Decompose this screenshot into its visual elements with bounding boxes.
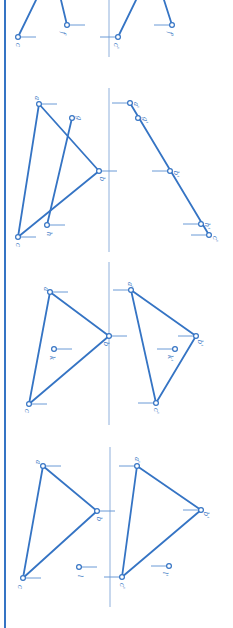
point-marker-icon: [65, 23, 70, 28]
point-marker-icon: [199, 222, 204, 227]
point-label: a': [126, 282, 134, 288]
point-b-prime: b': [152, 169, 180, 178]
point-marker-icon: [116, 35, 121, 40]
point-label: k: [48, 356, 56, 360]
point-label: l: [76, 575, 84, 577]
point-marker-icon: [154, 401, 159, 406]
point-label: b': [196, 340, 204, 346]
point-k: k: [48, 347, 72, 361]
projection-panel-1: cfc'f': [14, 0, 174, 57]
edge-line: [131, 290, 156, 403]
point-f: f: [59, 23, 85, 36]
point-c: c: [23, 402, 47, 413]
point-a: a: [42, 287, 68, 294]
point-a-prime: a': [119, 457, 141, 468]
point-marker-icon: [129, 288, 134, 293]
point-label: b: [95, 517, 103, 522]
point-label: g': [141, 117, 149, 123]
point-label: b: [102, 342, 110, 347]
point-b: b: [102, 334, 127, 347]
point-g-prime: g': [136, 116, 150, 124]
point-g: g: [70, 116, 84, 121]
point-marker-icon: [77, 565, 82, 570]
point-marker-icon: [128, 101, 133, 106]
edge-line: [29, 336, 109, 404]
edge-line: [23, 511, 97, 578]
point-label: c: [23, 409, 31, 413]
point-label: c': [211, 236, 219, 242]
edge-line: [164, 0, 172, 25]
point-label: a': [133, 457, 141, 463]
edge-line: [122, 510, 201, 577]
point-marker-icon: [136, 116, 141, 121]
point-label: h': [203, 223, 211, 230]
edge-line: [43, 466, 97, 511]
point-marker-icon: [207, 233, 212, 238]
edge-line: [18, 0, 36, 37]
point-marker-icon: [16, 35, 21, 40]
point-label: k': [166, 355, 174, 361]
point-marker-icon: [97, 169, 102, 174]
point-c-prime: c': [138, 401, 160, 414]
point-marker-icon: [120, 575, 125, 580]
point-label: g: [75, 116, 83, 121]
point-l-prime: l': [151, 564, 171, 577]
point-label: h: [45, 232, 53, 237]
point-c-prime: c': [104, 575, 126, 589]
edge-line: [61, 0, 67, 25]
edge-line: [47, 118, 72, 225]
point-marker-icon: [173, 347, 178, 352]
point-a: a: [34, 460, 61, 468]
point-marker-icon: [107, 334, 112, 339]
point-marker-icon: [167, 564, 172, 569]
edge-line: [50, 292, 109, 336]
point-f-prime: f': [154, 23, 174, 37]
point-label: a: [42, 287, 50, 291]
orthographic-projection-diagram: cfc'f'agbhca'g'b'h'c'abkca'b'k'c'ablca'b…: [0, 0, 233, 628]
point-c: c: [14, 235, 36, 247]
projection-panels: cfc'f'agbhca'g'b'h'c'abkca'b'k'c'ablca'b…: [14, 0, 219, 607]
point-l: l: [76, 565, 97, 578]
point-label: c: [16, 585, 24, 589]
edge-line: [118, 0, 136, 37]
point-marker-icon: [21, 576, 26, 581]
point-marker-icon: [95, 509, 100, 514]
point-marker-icon: [194, 334, 199, 339]
point-b: b: [97, 169, 117, 182]
edge-line: [18, 104, 39, 237]
edge-line: [39, 104, 99, 171]
point-label: b: [98, 177, 106, 182]
point-label: f: [59, 31, 67, 36]
point-marker-icon: [16, 235, 21, 240]
point-label: a: [34, 460, 42, 464]
point-marker-icon: [37, 102, 42, 107]
point-label: a: [33, 96, 41, 100]
point-marker-icon: [135, 464, 140, 469]
point-label: c: [14, 243, 22, 247]
point-marker-icon: [45, 223, 50, 228]
point-marker-icon: [27, 402, 32, 407]
point-marker-icon: [170, 23, 175, 28]
point-label: b': [172, 171, 180, 177]
point-b: b: [95, 509, 115, 522]
point-label: c': [152, 408, 160, 414]
point-marker-icon: [168, 169, 173, 174]
point-label: c': [112, 43, 120, 49]
point-c-prime: c': [100, 35, 120, 49]
point-label: a': [132, 102, 140, 108]
edge-line: [122, 466, 137, 577]
point-a-prime: a': [112, 101, 140, 109]
point-h-prime: h': [183, 222, 211, 230]
point-a-prime: a': [113, 282, 134, 292]
point-a: a: [33, 96, 57, 106]
point-marker-icon: [52, 347, 57, 352]
point-label: l': [161, 572, 169, 576]
point-label: c: [14, 43, 22, 47]
point-label: b': [202, 512, 210, 518]
point-c: c: [14, 35, 36, 47]
edge-line: [29, 292, 50, 404]
point-label: f': [166, 31, 174, 37]
edge-line: [131, 290, 196, 336]
projection-panel-2: agbhca'g'b'h'c': [14, 88, 219, 252]
edge-line: [137, 466, 201, 510]
